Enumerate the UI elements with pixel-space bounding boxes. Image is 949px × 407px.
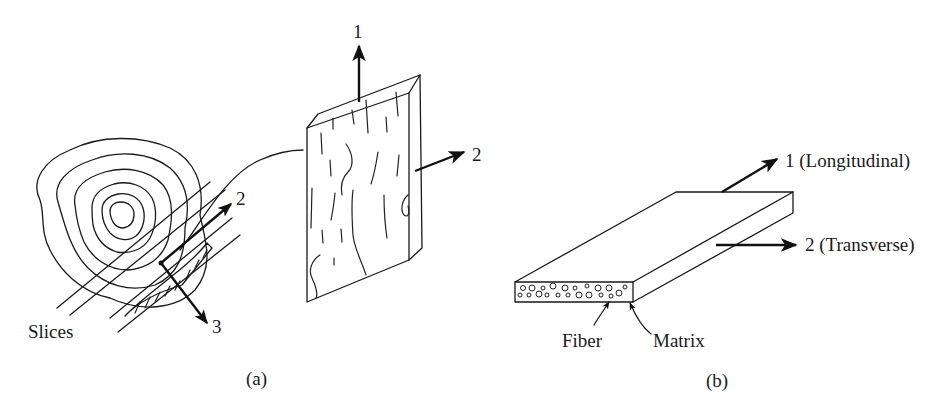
log-axis-3-label: 3 bbox=[212, 316, 222, 337]
matrix-label: Matrix bbox=[653, 330, 705, 351]
axis-1-longitudinal-arrow bbox=[722, 159, 777, 192]
longitudinal-label: 1 (Longitudinal) bbox=[785, 150, 910, 172]
fiber-leader-arrow bbox=[594, 302, 609, 325]
board-axis-1-label: 1 bbox=[353, 21, 363, 42]
transverse-label: 2 (Transverse) bbox=[805, 234, 915, 256]
board-axis-2-arrow bbox=[415, 152, 464, 171]
wood-and-composite-orthotropy-figure: 2 3 Slices 1 2 bbox=[0, 0, 949, 407]
panel-b-caption: (b) bbox=[706, 370, 728, 392]
panel-a-caption: (a) bbox=[246, 368, 267, 390]
slices-label: Slices bbox=[28, 321, 73, 342]
wood-board bbox=[307, 46, 464, 302]
log-axis-2-label: 2 bbox=[236, 188, 246, 209]
composite-lamina bbox=[515, 159, 796, 334]
fiber-cross-sections bbox=[518, 283, 627, 298]
fiber-label: Fiber bbox=[562, 330, 603, 351]
board-axis-2-label: 2 bbox=[472, 144, 482, 165]
matrix-leader-arrow bbox=[630, 303, 651, 334]
log-cross-section bbox=[37, 138, 303, 332]
